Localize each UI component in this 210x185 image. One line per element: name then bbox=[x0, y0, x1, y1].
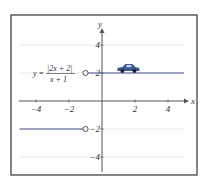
chart-frame bbox=[11, 15, 197, 175]
car-wheel bbox=[132, 69, 136, 73]
x-tick-label: 4 bbox=[166, 104, 171, 114]
x-axis-arrow-icon bbox=[184, 99, 189, 104]
open-point bbox=[83, 126, 88, 131]
y-tick-label: 4 bbox=[96, 40, 101, 50]
x-tick-label: −4 bbox=[31, 104, 42, 114]
open-point bbox=[83, 70, 88, 75]
x-tick-label: 2 bbox=[133, 104, 138, 114]
axes: x y bbox=[19, 19, 195, 172]
y-tick-label: −4 bbox=[89, 152, 100, 162]
y-axis-label: y bbox=[97, 19, 102, 29]
equation-label: y = |2x + 2| x + 1 bbox=[32, 64, 75, 84]
equation-numerator: |2x + 2| bbox=[47, 64, 72, 73]
y-tick-label: −2 bbox=[89, 124, 100, 134]
car-wheel bbox=[120, 69, 124, 73]
x-tick-label: −2 bbox=[64, 104, 75, 114]
x-axis-label: x bbox=[190, 96, 195, 106]
chart: x y −4−22442−2−4 y = |2x + 2| x + 1 bbox=[0, 0, 210, 185]
car-icon bbox=[117, 64, 139, 73]
equation-lhs: y = bbox=[32, 69, 44, 78]
equation-denominator: x + 1 bbox=[49, 75, 67, 84]
car-window bbox=[126, 65, 131, 67]
